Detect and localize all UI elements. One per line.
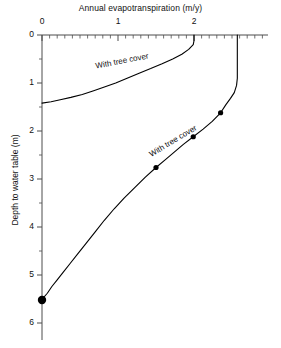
data-series-layer: [42, 35, 237, 300]
chart-figure: Annual evapotranspiration (m/y) Depth to…: [0, 0, 281, 348]
data-point-marker: [153, 165, 158, 170]
series-curve-1: [42, 35, 237, 300]
data-point-marker: [38, 296, 46, 304]
y-axis-ticks: [37, 35, 42, 323]
x-axis-ticks: [42, 35, 262, 41]
series-curve-0: [42, 35, 194, 103]
data-point-marker: [218, 110, 223, 115]
axes: [37, 35, 268, 340]
data-point-markers: [38, 110, 223, 304]
